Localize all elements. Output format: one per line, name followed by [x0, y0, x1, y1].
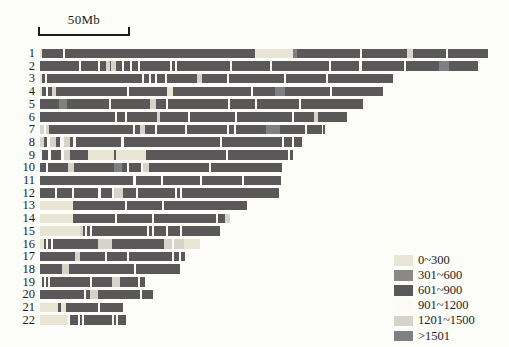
- chromosome-label-22: 22: [0, 315, 35, 326]
- density-segment-b3: [181, 252, 185, 262]
- density-segment-b3: [285, 87, 330, 97]
- density-segment-b3: [136, 264, 180, 274]
- density-segment-b3: [228, 150, 288, 160]
- density-segment-b3: [111, 99, 150, 109]
- density-segment-b3: [323, 125, 325, 135]
- chromosome-bar-1: [40, 49, 488, 59]
- density-segment-b3: [160, 112, 188, 122]
- legend-item-b5: 1201~1500: [394, 313, 475, 328]
- density-segment-b3: [154, 226, 166, 236]
- density-segment-b3: [140, 277, 145, 287]
- density-segment-b3: [211, 163, 282, 173]
- density-segment-b3: [237, 112, 292, 122]
- density-segment-b3: [73, 201, 125, 211]
- density-segment-b3: [98, 290, 140, 300]
- density-segment-b6: [275, 87, 285, 97]
- chromosome-bar-13: [40, 201, 247, 211]
- density-segment-b3: [168, 99, 228, 109]
- chromosome-label-15: 15: [0, 226, 35, 237]
- density-segment-b5: [112, 277, 120, 287]
- density-segment-b3: [146, 150, 226, 160]
- density-segment-b3: [40, 112, 115, 122]
- density-segment-b3: [318, 112, 347, 122]
- legend-swatch-b5: [394, 316, 413, 327]
- chromosome-label-14: 14: [0, 213, 35, 224]
- density-segment-b3: [190, 112, 235, 122]
- density-segment-b3: [182, 188, 279, 198]
- density-segment-b3: [92, 277, 112, 287]
- density-segment-b3: [101, 188, 112, 198]
- density-segment-b3: [70, 150, 88, 160]
- chromosome-label-19: 19: [0, 277, 35, 288]
- density-segment-b3: [177, 61, 230, 71]
- density-segment-b3: [202, 176, 242, 186]
- density-segment-b3: [145, 125, 155, 135]
- chromosome-label-20: 20: [0, 289, 35, 300]
- density-segment-b3: [40, 176, 133, 186]
- scale-bar-right-tick: [128, 27, 130, 36]
- density-segment-b3: [286, 74, 326, 84]
- density-segment-b3: [49, 125, 133, 135]
- chromosome-bar-3: [40, 74, 393, 84]
- density-segment-b3: [406, 61, 439, 71]
- density-segment-b5: [98, 239, 112, 249]
- density-segment-b3: [244, 176, 281, 186]
- density-segment-b3: [140, 61, 170, 71]
- legend-item-b6: >1501: [394, 329, 450, 344]
- density-segment-b3: [297, 49, 360, 59]
- density-segment-b3: [301, 99, 363, 109]
- density-segment-b6: [59, 99, 67, 109]
- chromosome-bar-17: [40, 252, 185, 262]
- density-segment-b3: [202, 74, 227, 84]
- chromosome-bar-8: [40, 137, 302, 147]
- chromosome-label-18: 18: [0, 264, 35, 275]
- density-segment-b3: [129, 163, 141, 173]
- density-segment-b3: [157, 74, 165, 84]
- density-segment-b5: [114, 188, 123, 198]
- density-segment-b3: [332, 87, 383, 97]
- density-segment-b3: [182, 226, 220, 236]
- legend-label: 0~300: [418, 254, 450, 267]
- density-segment-b3: [107, 252, 127, 262]
- density-segment-b3: [127, 112, 157, 122]
- density-segment-b1: [88, 150, 114, 160]
- chromosome-label-4: 4: [0, 86, 35, 97]
- scale-bar-left-tick: [38, 27, 40, 36]
- density-segment-b3: [413, 49, 446, 59]
- chromosome-label-21: 21: [0, 302, 35, 313]
- chromosome-bar-14: [40, 214, 230, 224]
- density-segment-b3: [290, 150, 293, 160]
- chromosome-label-11: 11: [0, 175, 35, 186]
- density-segment-b3: [120, 277, 138, 287]
- density-segment-b3: [57, 188, 72, 198]
- legend-label: 1201~1500: [418, 314, 475, 327]
- density-segment-b3: [56, 87, 127, 97]
- density-segment-b3: [173, 87, 251, 97]
- density-segment-b3: [167, 74, 197, 84]
- legend-item-b1: 0~300: [394, 253, 450, 268]
- legend-label: >1501: [418, 330, 450, 343]
- density-segment-b3: [236, 125, 266, 135]
- chromosome-label-1: 1: [0, 48, 35, 59]
- density-segment-b1: [184, 239, 200, 249]
- density-segment-b1: [116, 150, 146, 160]
- density-segment-b3: [154, 214, 216, 224]
- density-segment-b3: [40, 188, 55, 198]
- legend-item-b2: 301~600: [394, 268, 462, 283]
- density-segment-b3: [47, 74, 142, 84]
- chromosome-label-17: 17: [0, 251, 35, 262]
- density-segment-b1: [40, 303, 58, 313]
- chromosome-bar-7: [40, 125, 325, 135]
- density-segment-b3: [449, 61, 478, 71]
- chromosome-bar-5: [40, 99, 363, 109]
- density-segment-b3: [362, 49, 407, 59]
- density-segment-b3: [294, 112, 314, 122]
- legend-label: 301~600: [418, 269, 462, 282]
- density-segment-b3: [218, 214, 225, 224]
- density-segment-b3: [222, 137, 282, 147]
- density-segment-b3: [284, 137, 292, 147]
- density-segment-b3: [123, 188, 136, 198]
- legend-swatch-b1: [394, 255, 413, 266]
- legend-swatch-b4: [394, 301, 413, 312]
- scale-bar-label: 50Mb: [38, 12, 130, 28]
